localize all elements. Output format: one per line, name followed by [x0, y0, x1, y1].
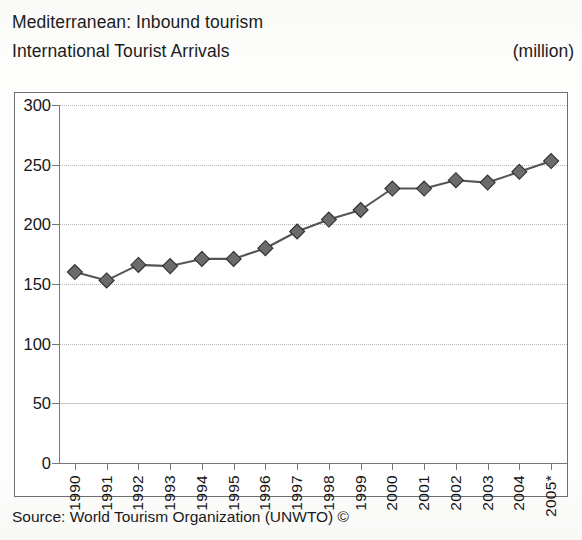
- x-tick-2000: [392, 463, 393, 470]
- x-tick-1992: [138, 463, 139, 470]
- x-tick-label-1991: 1991: [99, 475, 115, 511]
- x-tick-label-1996: 1996: [257, 475, 273, 511]
- x-axis-line: [59, 463, 567, 464]
- data-point-1992: [131, 257, 146, 272]
- data-point-2002: [448, 173, 463, 188]
- x-tick-label-2000: 2000: [384, 475, 400, 511]
- x-tick-label-1995: 1995: [226, 475, 242, 511]
- y-tick-label-250: 250: [15, 157, 51, 174]
- x-tick-label-1992: 1992: [130, 475, 146, 511]
- y-axis-labels: 050100150200250300: [15, 105, 51, 463]
- chart-heading: Mediterranean: Inbound tourism Internati…: [12, 8, 572, 66]
- x-tick-2003: [488, 463, 489, 470]
- x-tick-label-2003: 2003: [480, 475, 496, 511]
- data-point-1995: [226, 251, 241, 266]
- x-tick-label-1993: 1993: [162, 475, 178, 511]
- data-point-2000: [385, 181, 400, 196]
- y-tick-label-100: 100: [15, 336, 51, 353]
- series-markers: [67, 154, 558, 288]
- data-point-1993: [163, 259, 178, 274]
- data-series-area: [59, 105, 567, 463]
- x-tick-label-1997: 1997: [289, 475, 305, 511]
- chart-title-line-1: Mediterranean: Inbound tourism: [12, 8, 572, 37]
- data-point-1997: [290, 224, 305, 239]
- x-tick-2005*: [551, 463, 552, 470]
- y-tick-label-300: 300: [15, 97, 51, 114]
- data-point-2003: [480, 175, 495, 190]
- data-point-1991: [99, 273, 114, 288]
- y-tick-label-150: 150: [15, 276, 51, 293]
- chart-plot-frame: 050100150200250300 199019911992199319941…: [14, 92, 568, 497]
- x-tick-label-2004: 2004: [511, 475, 527, 511]
- data-point-1998: [321, 212, 336, 227]
- x-tick-label-2002: 2002: [448, 475, 464, 511]
- x-tick-label-1998: 1998: [321, 475, 337, 511]
- x-tick-1998: [329, 463, 330, 470]
- x-tick-2004: [519, 463, 520, 470]
- data-point-1994: [194, 251, 209, 266]
- x-tick-1996: [265, 463, 266, 470]
- x-tick-label-1999: 1999: [353, 475, 369, 511]
- data-point-2005*: [544, 154, 559, 169]
- series-line: [75, 161, 551, 280]
- x-tick-1994: [202, 463, 203, 470]
- x-tick-label-1990: 1990: [67, 475, 83, 511]
- tourist-arrivals-series: [59, 105, 567, 463]
- x-tick-2002: [456, 463, 457, 470]
- x-tick-label-2001: 2001: [416, 475, 432, 511]
- x-tick-1995: [234, 463, 235, 470]
- x-tick-label-2005*: 2005*: [543, 475, 559, 517]
- x-tick-label-1994: 1994: [194, 475, 210, 511]
- data-point-2004: [512, 164, 527, 179]
- source-note: Source: World Tourism Organization (UNWT…: [12, 508, 349, 526]
- x-tick-1999: [361, 463, 362, 470]
- x-tick-1993: [170, 463, 171, 470]
- chart-title-line-2: International Tourist Arrivals: [12, 37, 572, 66]
- x-tick-1997: [297, 463, 298, 470]
- x-tick-1990: [75, 463, 76, 470]
- y-tick-label-0: 0: [15, 455, 51, 472]
- unit-label: (million): [513, 37, 574, 66]
- y-tick-label-200: 200: [15, 216, 51, 233]
- y-tick-label-50: 50: [15, 395, 51, 412]
- data-point-1999: [353, 203, 368, 218]
- x-tick-2001: [424, 463, 425, 470]
- data-point-1990: [67, 265, 82, 280]
- data-point-1996: [258, 241, 273, 256]
- x-tick-1991: [107, 463, 108, 470]
- data-point-2001: [417, 181, 432, 196]
